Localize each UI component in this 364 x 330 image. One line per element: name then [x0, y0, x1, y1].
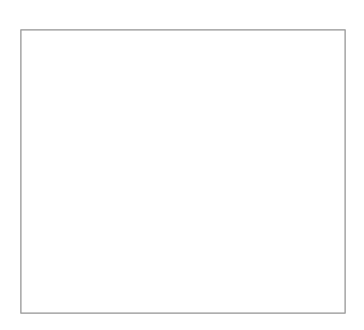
axes-frame-overlay — [21, 30, 345, 313]
figure-canvas — [0, 0, 364, 330]
fractal-plot — [0, 0, 364, 330]
